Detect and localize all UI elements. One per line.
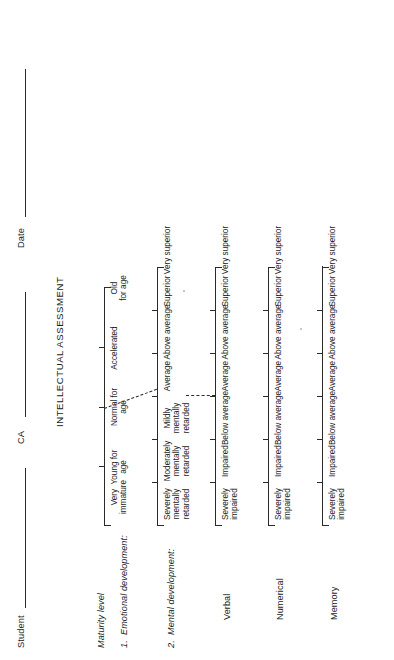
reference-line-drop-1: [186, 395, 215, 396]
section-1-number: 1.: [119, 640, 129, 648]
numerical-scale-label-6[interactable]: Very superior: [274, 219, 283, 281]
ca-field-rule[interactable]: [25, 292, 26, 417]
row-label-memory: Memory: [329, 587, 339, 620]
maturity-level-heading: Maturity level: [96, 593, 106, 648]
section-2-number: 2.: [166, 640, 176, 648]
paper-speck: [300, 328, 302, 330]
emotional-scale-tick-1: [99, 466, 105, 467]
mental-scale-tick-1: [152, 482, 158, 483]
emotional-scale-tick-3: [99, 347, 105, 348]
ca-field-label: CA: [16, 431, 26, 444]
emotional-scale-label-1[interactable]: Young for age: [110, 438, 129, 496]
student-field-label: Student: [16, 615, 26, 648]
mental-scale-label-6[interactable]: Very superior: [163, 219, 172, 281]
section-2-label: Mental development:: [166, 549, 176, 635]
memory-scale-label-6[interactable]: Very superior: [328, 219, 337, 281]
emotional-scale-label-2[interactable]: Normal for age: [110, 378, 129, 436]
numerical-scale-tick-1: [263, 482, 269, 483]
reference-line-segment-mental-right: [157, 268, 158, 396]
reference-line-segment-numerical: [268, 270, 269, 460]
reference-line-segment-verbal: [215, 270, 216, 460]
row-label-numerical: Numerical: [275, 578, 285, 620]
page-rotation-stage: Student CA Date INTELLECTUAL ASSESSMENT …: [0, 0, 394, 660]
memory-scale-tick-1: [317, 482, 323, 483]
student-field-rule[interactable]: [25, 468, 26, 608]
mental-scale-tick-2: [152, 439, 158, 440]
verbal-scale-tick-1: [210, 482, 216, 483]
row-label-verbal: Verbal: [222, 594, 232, 620]
emotional-scale-label-3[interactable]: Accelerated: [110, 317, 119, 379]
paper-speck: [183, 290, 185, 292]
reference-line-segment-memory: [322, 266, 323, 460]
date-field-label: Date: [16, 228, 26, 248]
section-1-label: Emotional development:: [119, 535, 129, 635]
assessment-form-sheet: Student CA Date INTELLECTUAL ASSESSMENT …: [0, 0, 394, 660]
date-field-rule[interactable]: [25, 69, 26, 217]
page-title: INTELLECTUAL ASSESSMENT: [55, 277, 66, 427]
verbal-scale-label-6[interactable]: Very superior: [221, 219, 230, 281]
emotional-scale-label-4[interactable]: Old for age: [110, 260, 129, 316]
